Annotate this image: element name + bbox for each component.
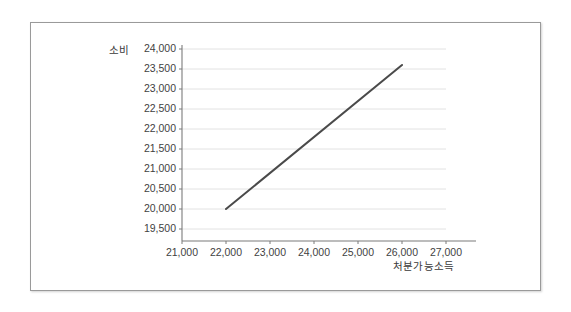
x-tick-label: 24,000 — [289, 246, 339, 258]
y-tick-label: 24,000 — [128, 42, 176, 54]
axis-lines — [182, 45, 476, 241]
y-tick-label: 21,500 — [128, 142, 176, 154]
y-tick-label: 23,000 — [128, 82, 176, 94]
y-tick-label: 22,500 — [128, 102, 176, 114]
gridlines — [182, 49, 446, 229]
data-line — [226, 65, 402, 209]
tick-marks — [179, 49, 446, 244]
chart-frame: 소비 처분가능소득 19,50020,00020,50021,00021,500… — [30, 22, 541, 291]
y-tick-label: 22,000 — [128, 122, 176, 134]
y-tick-label: 20,500 — [128, 182, 176, 194]
x-tick-label: 27,000 — [421, 246, 471, 258]
y-tick-label: 19,500 — [128, 222, 176, 234]
y-tick-label: 23,500 — [128, 62, 176, 74]
y-tick-label: 21,000 — [128, 162, 176, 174]
x-tick-label: 23,000 — [245, 246, 295, 258]
x-tick-label: 22,000 — [201, 246, 251, 258]
data-series-group — [226, 65, 402, 209]
y-tick-label: 20,000 — [128, 202, 176, 214]
x-tick-label: 26,000 — [377, 246, 427, 258]
x-tick-label: 21,000 — [157, 246, 207, 258]
x-tick-label: 25,000 — [333, 246, 383, 258]
